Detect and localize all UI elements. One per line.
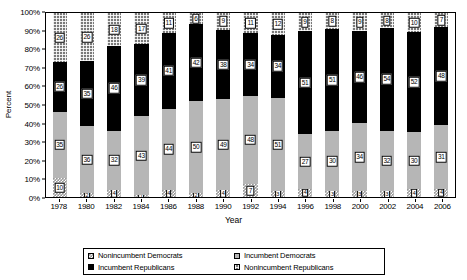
x-tick-label: 2002	[379, 202, 396, 211]
bar-1992[interactable]: 7483411	[243, 13, 257, 197]
bar-1988[interactable]: 250426	[189, 13, 203, 197]
y-tick-label: 100%	[20, 8, 40, 17]
legend-label: Nonincumbent Republicans	[244, 263, 333, 272]
bar-value-label: 26	[54, 82, 65, 93]
segment-incumbent-republicans: 34	[243, 33, 257, 96]
y-tick-label: 90%	[25, 26, 40, 35]
segment-incumbent-republicans: 54	[380, 28, 394, 130]
segment-nonincumbent-democrats: 2	[80, 193, 94, 197]
y-axis-title: Percent	[4, 70, 13, 140]
bar-1986[interactable]: 4444111	[162, 13, 176, 197]
bar-value-label: 17	[136, 23, 147, 34]
bar-1978[interactable]: 10352626	[53, 13, 67, 197]
segment-incumbent-democrats: 43	[134, 116, 148, 195]
legend-item-nonincumbent-republicans: Nonincumbent Republicans	[234, 263, 380, 272]
bar-2004[interactable]: 4305210	[407, 13, 421, 197]
bar-1998[interactable]: 330518	[325, 13, 339, 197]
y-tick-label: 40%	[25, 119, 40, 128]
x-tick-label: 1998	[324, 202, 341, 211]
legend-swatch-icon	[234, 264, 240, 270]
segment-incumbent-republicans: 41	[162, 33, 176, 108]
bar-value-label: 35	[82, 89, 93, 100]
x-tick-label: 1994	[270, 202, 287, 211]
plot-area: 1035262623635264324618143391744441112504…	[45, 12, 456, 198]
segment-nonincumbent-republicans: 26	[80, 13, 94, 61]
bar-value-label: 39	[136, 75, 147, 86]
x-tick-mark	[278, 199, 279, 202]
bar-value-label: 27	[300, 156, 311, 167]
bar-2000[interactable]: 334469	[352, 13, 366, 197]
segment-nonincumbent-republicans: 17	[134, 13, 148, 44]
x-tick-label: 1992	[242, 202, 259, 211]
segment-incumbent-republicans: 39	[134, 44, 148, 116]
legend-item-incumbent-republicans: Incumbent Republicans	[88, 263, 234, 272]
bar-2002[interactable]: 332548	[380, 13, 394, 197]
bar-value-label: 34	[272, 61, 283, 72]
segment-incumbent-democrats: 30	[407, 132, 421, 190]
bar-value-label: 4	[302, 189, 308, 197]
bar-value-label: 26	[54, 32, 65, 43]
segment-incumbent-republicans: 38	[216, 30, 230, 100]
segment-nonincumbent-democrats: 4	[216, 190, 230, 197]
segment-nonincumbent-democrats: 4	[298, 189, 312, 197]
bar-value-label: 42	[191, 57, 202, 68]
segment-incumbent-republicans: 48	[434, 27, 448, 125]
segment-incumbent-republicans: 46	[107, 46, 121, 131]
bar-value-label: 30	[327, 156, 338, 167]
bar-1984[interactable]: 1433917	[134, 13, 148, 197]
x-tick-label: 2006	[434, 202, 451, 211]
y-tick-label: 20%	[25, 156, 40, 165]
segment-incumbent-republicans: 51	[298, 31, 312, 134]
bar-value-label: 34	[245, 59, 256, 70]
x-tick-mark	[223, 199, 224, 202]
bar-1980[interactable]: 2363526	[80, 13, 94, 197]
segment-nonincumbent-republicans: 26	[53, 13, 67, 62]
bar-value-label: 7	[438, 15, 445, 26]
bar-value-label: 9	[356, 17, 363, 28]
bar-value-label: 8	[329, 16, 336, 27]
x-tick-label: 1984	[133, 202, 150, 211]
bar-value-label: 34	[354, 152, 365, 163]
segment-nonincumbent-democrats: 1	[134, 195, 148, 197]
legend-swatch-icon	[234, 253, 240, 259]
segment-incumbent-republicans: 26	[53, 62, 67, 111]
segment-incumbent-democrats: 50	[189, 101, 203, 193]
bar-value-label: 48	[436, 71, 447, 82]
segment-incumbent-republicans: 51	[325, 29, 339, 131]
bar-value-label: 31	[436, 152, 447, 163]
segment-incumbent-republicans: 52	[407, 32, 421, 132]
x-tick-mark	[86, 199, 87, 202]
y-tick-label: 30%	[25, 138, 40, 147]
y-tick-label: 70%	[25, 63, 40, 72]
segment-incumbent-democrats: 27	[298, 134, 312, 189]
segment-nonincumbent-democrats: 7	[243, 184, 257, 197]
segment-nonincumbent-democrats: 3	[271, 191, 285, 197]
legend-swatch-icon	[88, 253, 94, 259]
segment-nonincumbent-republicans: 11	[162, 13, 176, 33]
bar-1994[interactable]: 3513412	[271, 13, 285, 197]
bar-2006[interactable]: 431487	[434, 13, 448, 197]
bar-1990[interactable]: 449389	[216, 13, 230, 197]
bar-value-label: 8	[383, 15, 390, 26]
bar-value-label: 11	[164, 18, 174, 29]
segment-incumbent-democrats: 32	[380, 131, 394, 192]
x-tick-mark	[442, 199, 443, 202]
segment-nonincumbent-democrats: 4	[434, 189, 448, 197]
bar-value-label: 52	[409, 77, 420, 88]
bar-1982[interactable]: 4324618	[107, 13, 121, 197]
segment-nonincumbent-democrats: 3	[352, 191, 366, 197]
bar-group: 1035262623635264324618143391744441112504…	[46, 13, 455, 197]
bar-value-label: 46	[109, 83, 120, 94]
chart-root: Percent 0%10%20%30%40%50%60%70%80%90%100…	[0, 0, 467, 280]
segment-incumbent-democrats: 49	[216, 99, 230, 189]
bar-1996[interactable]: 427519	[298, 13, 312, 197]
segment-nonincumbent-republicans: 9	[216, 13, 230, 30]
segment-nonincumbent-republicans: 8	[325, 13, 339, 29]
segment-incumbent-democrats: 51	[271, 98, 285, 192]
segment-incumbent-democrats: 31	[434, 125, 448, 188]
bar-value-label: 50	[191, 142, 202, 153]
bar-value-label: 11	[245, 18, 255, 29]
y-tick-label: 60%	[25, 82, 40, 91]
segment-incumbent-democrats: 30	[325, 131, 339, 191]
bar-value-label: 49	[218, 139, 229, 150]
